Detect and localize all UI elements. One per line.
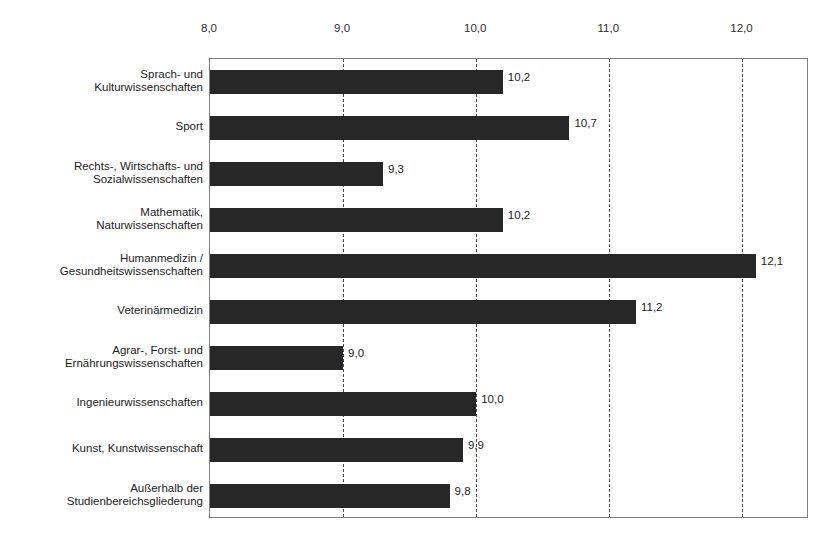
- bar: [210, 208, 503, 232]
- x-axis-tick-0: 8,0: [201, 22, 217, 34]
- bar: [210, 392, 476, 416]
- bar: [210, 438, 463, 462]
- category-label: Sprach- und Kulturwissenschaften: [0, 68, 203, 95]
- x-axis-tick-2: 10,0: [464, 22, 486, 34]
- chart-title-clipped: [0, 0, 834, 5]
- bar-row: 10,2: [210, 59, 807, 105]
- bar-row: 9,3: [210, 151, 807, 197]
- x-axis-tick-1: 9,0: [334, 22, 350, 34]
- category-label: Ingenieurwissenschaften: [0, 396, 203, 410]
- y-axis-category-labels: Sprach- und KulturwissenschaftenSportRec…: [0, 58, 203, 518]
- bar: [210, 70, 503, 94]
- bar-row: 9,9: [210, 427, 807, 473]
- bar: [210, 254, 756, 278]
- x-axis-tick-labels: 8,09,010,011,012,0: [0, 22, 834, 40]
- bar-chart: 8,09,010,011,012,0 Sprach- und Kulturwis…: [0, 0, 834, 545]
- category-label: Veterinärmedizin: [0, 304, 203, 318]
- bar-value-label: 9,9: [468, 440, 484, 452]
- bars: 10,210,79,310,212,111,29,010,09,99,8: [210, 59, 807, 517]
- bar-value-label: 10,2: [508, 210, 530, 222]
- x-axis-tick-3: 11,0: [598, 22, 620, 34]
- bar-value-label: 9,3: [388, 164, 404, 176]
- bar-row: 10,0: [210, 381, 807, 427]
- bar: [210, 300, 636, 324]
- bar-value-label: 9,8: [455, 486, 471, 498]
- bar-row: 12,1: [210, 243, 807, 289]
- category-label: Agrar-, Forst- und Ernährungswissenschaf…: [0, 344, 203, 371]
- bar-row: 10,2: [210, 197, 807, 243]
- bar: [210, 346, 343, 370]
- bar-value-label: 10,0: [481, 394, 503, 406]
- bar: [210, 484, 450, 508]
- bar: [210, 162, 383, 186]
- category-label: Kunst, Kunstwissenschaft: [0, 442, 203, 456]
- category-label: Sport: [0, 120, 203, 134]
- bar: [210, 116, 569, 140]
- x-axis-tick-4: 12,0: [730, 22, 752, 34]
- category-label: Außerhalb der Studienbereichsgliederung: [0, 482, 203, 509]
- plot-area: 10,210,79,310,212,111,29,010,09,99,8: [209, 58, 808, 518]
- bar-value-label: 10,7: [574, 118, 596, 130]
- bar-row: 11,2: [210, 289, 807, 335]
- category-label: Mathematik, Naturwissenschaften: [0, 206, 203, 233]
- bar-row: 9,8: [210, 473, 807, 519]
- bar-value-label: 11,2: [641, 302, 663, 314]
- bar-value-label: 10,2: [508, 72, 530, 84]
- bar-row: 9,0: [210, 335, 807, 381]
- bar-value-label: 9,0: [348, 348, 364, 360]
- bar-row: 10,7: [210, 105, 807, 151]
- bar-value-label: 12,1: [761, 256, 783, 268]
- category-label: Humanmedizin / Gesundheitswissenschaften: [0, 252, 203, 279]
- category-label: Rechts-, Wirtschafts- und Sozialwissensc…: [0, 160, 203, 187]
